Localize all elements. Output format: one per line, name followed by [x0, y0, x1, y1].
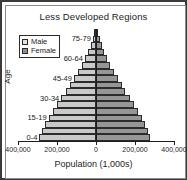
bar-male: [57, 101, 96, 108]
bar-female: [96, 115, 142, 122]
legend-item: Female: [22, 46, 56, 55]
bar-male: [53, 108, 96, 115]
bar-female: [96, 101, 134, 108]
bar-female: [96, 88, 125, 95]
legend-swatch-male: [22, 39, 28, 45]
bar-female: [96, 69, 114, 76]
legend-swatch-female: [22, 48, 28, 54]
x-axis-tick: [135, 141, 136, 145]
bar-male: [66, 88, 96, 95]
center-axis-line: [96, 29, 97, 141]
legend-item: Male: [22, 37, 56, 46]
x-axis-tick-label: 400,000: [151, 146, 187, 153]
y-axis-tick-label: 30-34: [25, 94, 59, 103]
bar-male: [45, 121, 96, 128]
bar-female: [96, 62, 110, 69]
bar-male: [88, 49, 96, 56]
bar-female: [96, 128, 148, 135]
bar-male: [42, 128, 96, 135]
y-axis-tick-label: 75-79: [57, 34, 91, 43]
x-axis-title: Population (1,000s): [0, 159, 187, 169]
x-axis-tick: [96, 141, 97, 145]
bar-female: [96, 121, 145, 128]
bar-male: [82, 62, 96, 69]
bar-male: [78, 69, 96, 76]
legend-label: Female: [31, 46, 56, 55]
chart-legend: MaleFemale: [19, 35, 60, 58]
bar-female: [96, 49, 104, 56]
bar-male: [74, 75, 96, 82]
bar-male: [85, 55, 96, 62]
bar-male: [49, 115, 96, 122]
y-axis-title: Age: [3, 57, 12, 97]
y-axis-tick-label: 45-49: [38, 74, 72, 83]
legend-label: Male: [31, 37, 47, 46]
bar-female: [96, 55, 107, 62]
y-axis-tick-label: 15-19: [13, 113, 47, 122]
x-axis-tick: [174, 141, 175, 145]
bar-female: [96, 82, 122, 89]
bar-female: [96, 108, 138, 115]
x-axis-tick: [57, 141, 58, 145]
bar-female: [96, 134, 150, 141]
bar-female: [96, 75, 118, 82]
bar-female: [96, 95, 130, 102]
bar-male: [39, 134, 96, 141]
x-axis-tick: [18, 141, 19, 145]
bar-male: [70, 82, 96, 89]
population-pyramid-chart: Less Developed Regions 0-415-1930-3445-4…: [0, 0, 187, 180]
chart-title: Less Developed Regions: [0, 11, 187, 22]
bar-male: [61, 95, 96, 102]
